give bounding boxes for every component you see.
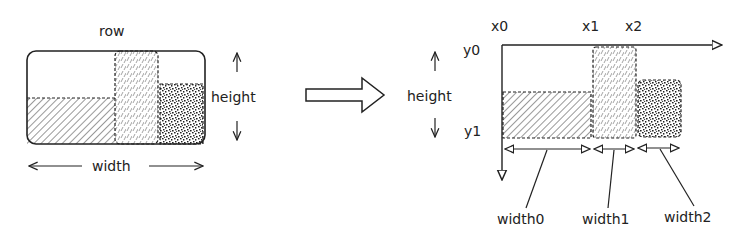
height-label: height: [211, 89, 256, 105]
x0-label: x0: [491, 18, 508, 34]
right-height-label: height: [407, 88, 452, 104]
hollow-right-arrow-icon: [306, 78, 384, 112]
row-title: row: [99, 23, 124, 39]
x1-label: x1: [582, 18, 599, 34]
right-layout-diagram: height y0 y1 x0 x1 x2 width0 width1 widt…: [407, 18, 722, 227]
child-1-light-hatch: [593, 47, 636, 138]
y0-label: y0: [463, 42, 480, 58]
child-0-hatched: [503, 92, 591, 138]
row-layout-diagram: row height width height y0 y1 x0: [0, 0, 743, 239]
x2-label: x2: [625, 18, 642, 34]
width0-label: width0: [497, 211, 545, 227]
left-row-diagram: row height width: [27, 23, 256, 174]
width2-label: width2: [664, 209, 712, 225]
child-2-dotted: [638, 80, 681, 137]
width1-label: width1: [582, 211, 630, 227]
width1-leader: [608, 150, 614, 208]
width0-leader: [526, 150, 547, 208]
child-0-hatched: [27, 98, 115, 144]
y1-label: y1: [464, 123, 481, 139]
child-1-light-hatch: [115, 51, 158, 144]
width2-leader: [660, 149, 694, 206]
child-2-dotted: [160, 84, 203, 144]
width-label: width: [92, 158, 131, 174]
